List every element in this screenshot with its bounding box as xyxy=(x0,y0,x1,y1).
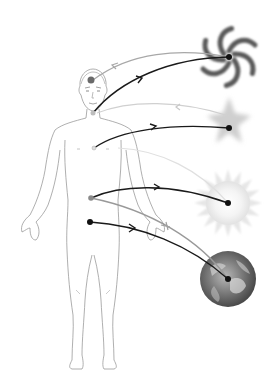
outgoing-connections xyxy=(90,57,229,279)
earth-point xyxy=(225,276,231,282)
diagram-svg xyxy=(0,0,279,390)
sun-point xyxy=(225,200,231,206)
star-icon xyxy=(207,97,251,143)
connection-chest-to-star xyxy=(94,126,229,148)
throat-point xyxy=(91,111,96,116)
diagram-canvas: Human body energy connections to cosmos xyxy=(0,0,279,390)
navel-point xyxy=(88,195,94,201)
pelvis-point xyxy=(87,219,93,225)
connection-throat-to-galaxy xyxy=(93,57,229,113)
chest-point xyxy=(92,146,96,150)
head-outline xyxy=(79,69,107,111)
star-point xyxy=(226,125,232,131)
connection-star-to-throat xyxy=(97,104,229,116)
galaxy-point xyxy=(226,54,232,60)
incoming-connections xyxy=(91,53,229,279)
endpoint-dots xyxy=(87,54,232,282)
head-point xyxy=(88,77,95,84)
